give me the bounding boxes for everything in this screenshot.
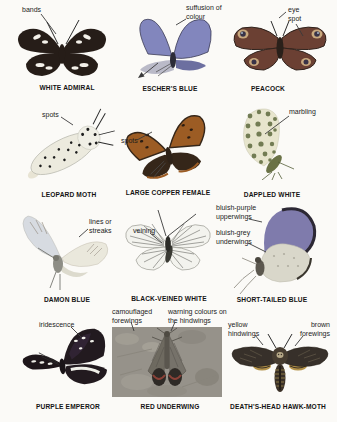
caption-damon-blue: DAMON BLUE [17, 296, 117, 303]
caption-white-admiral: WHITE ADMIRAL [17, 84, 117, 91]
leader-suffusion [176, 19, 186, 25]
leader-eye-spot-2 [279, 12, 286, 18]
caption-red-underwing: RED UNDERWING [120, 403, 220, 410]
field-guide-page: bands suffusion of colour eye spot spots… [0, 0, 337, 422]
annotation-camouflaged: camouflaged forewings [112, 307, 166, 325]
caption-peacock: PEACOCK [218, 85, 318, 92]
caption-eschers-blue: ESCHER'S BLUE [120, 85, 220, 92]
caption-deaths-head: DEATH'S-HEAD HAWK-MOTH [222, 403, 334, 410]
annotation-lines-streaks: lines or streaks [89, 217, 129, 235]
leader-lines-streaks [79, 229, 88, 237]
caption-large-copper: LARGE COPPER FEMALE [118, 189, 218, 196]
annotation-suffusion: suffusion of colour [186, 3, 230, 21]
leader-bands [41, 14, 56, 34]
leader-marbling [265, 116, 289, 134]
caption-purple-emperor: PURPLE EMPEROR [18, 403, 118, 410]
caption-leopard-moth: LEOPARD MOTH [19, 191, 119, 198]
annotation-iridescence: iridescence [39, 320, 99, 329]
leader-lines-overlay [0, 0, 337, 422]
annotation-eye-spot: eye spot [288, 5, 312, 23]
leader-suffusion-arrow [142, 63, 158, 76]
annotation-bluish-grey: bluish-grey underwings [216, 228, 276, 246]
annotation-spots-copper: spots [121, 136, 151, 145]
leader-eye-spot [296, 24, 303, 36]
annotation-marbling: marbling [289, 107, 331, 116]
annotation-yellow-hindwings: yellow hindwings [228, 320, 270, 338]
caption-black-veined-white: BLACK-VEINED WHITE [119, 295, 219, 302]
annotation-bands: bands [22, 5, 54, 14]
annotation-brown-forewings: brown forewings [290, 320, 330, 338]
caption-dappled-white: DAPPLED WHITE [222, 191, 322, 198]
caption-short-tailed-blue: SHORT-TAILED BLUE [222, 296, 322, 303]
annotation-bluish-purple: bluish-purple upperwings [216, 203, 276, 221]
annotation-veining: veining [133, 226, 173, 235]
annotation-spots-leopard: spots [42, 110, 72, 119]
